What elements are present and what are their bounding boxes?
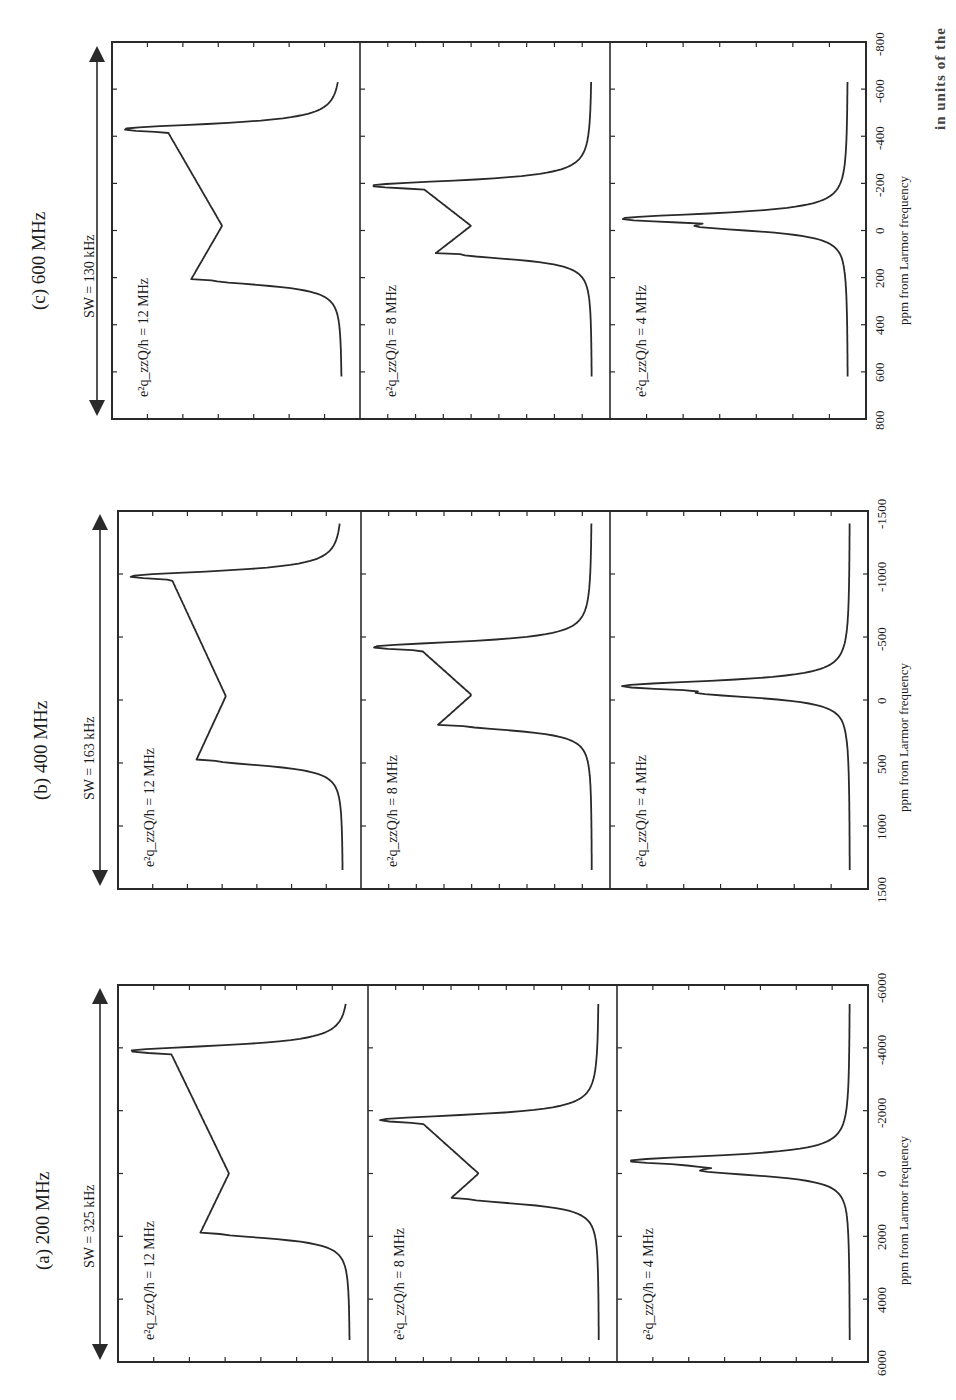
axis-tick-label: 600	[872, 363, 888, 383]
spectrum-line-b-3	[622, 524, 850, 871]
axis-tick-label: 2000	[874, 1224, 890, 1250]
axis-tick-label: 500	[874, 754, 890, 774]
panel-a-axis-title: ppm from Larmor frequency	[896, 1136, 912, 1285]
panel-b-title: (b) 400 MHz	[30, 701, 52, 800]
axis-tick-label: -200	[872, 174, 888, 198]
panel-c-sweep-width: SW = 130 kHz	[82, 235, 98, 318]
axis-tick-label: 0	[874, 1171, 890, 1178]
axis-tick-label: 4000	[874, 1287, 890, 1313]
axis-tick-label: -1500	[874, 498, 890, 528]
axis-tick-label: 1500	[874, 877, 890, 903]
axis-tick-label: -400	[872, 126, 888, 150]
axis-tick-label: -4000	[874, 1035, 890, 1065]
axis-tick-label: 0	[872, 228, 888, 235]
axis-tick-label: -600	[872, 79, 888, 103]
spectrum-line-c-3	[623, 82, 848, 377]
spectrum-line-a-3	[631, 1004, 850, 1340]
axis-tick-label: -500	[874, 627, 890, 651]
axis-tick-label: -1000	[874, 561, 890, 591]
spectrum-line-a-2	[380, 1004, 599, 1340]
quadrupole-coupling-label: e²q_zzQ/h = 4 MHz	[641, 1228, 657, 1340]
panel-b-sweep-width: SW = 163 kHz	[82, 717, 98, 800]
quadrupole-coupling-label: e²q_zzQ/h = 8 MHz	[392, 1228, 408, 1340]
axis-tick-label: -6000	[874, 972, 890, 1002]
quadrupole-coupling-label: e²q_zzQ/h = 8 MHz	[384, 285, 400, 397]
quadrupole-coupling-label: e²q_zzQ/h = 8 MHz	[385, 755, 401, 867]
figure-caption-fragment: in units of the	[932, 27, 949, 130]
spectrum-line-c-2	[374, 82, 592, 377]
axis-tick-label: 400	[872, 316, 888, 336]
spectrum-line-a-1	[132, 1004, 350, 1340]
quadrupole-coupling-label: e²q_zzQ/h = 4 MHz	[634, 755, 650, 867]
axis-tick-label: 200	[872, 269, 888, 289]
axis-tick-label: 6000	[874, 1350, 890, 1376]
panel-a-frame	[118, 985, 868, 1362]
axis-tick-label: 800	[872, 410, 888, 430]
axis-tick-label: 0	[874, 697, 890, 704]
axis-tick-label: -800	[872, 32, 888, 56]
spectrum-line-c-1	[125, 82, 341, 377]
axis-tick-label: 1000	[874, 814, 890, 840]
spectrum-line-b-2	[374, 524, 592, 871]
quadrupole-coupling-label: e²q_zzQ/h = 12 MHz	[142, 1221, 158, 1340]
panel-c-axis-title: ppm from Larmor frequency	[896, 176, 912, 325]
quadrupole-coupling-label: e²q_zzQ/h = 12 MHz	[136, 278, 152, 397]
panel-c-title: (c) 600 MHz	[28, 212, 50, 310]
panel-a-sweep-width: SW = 325 kHz	[82, 1185, 98, 1268]
panel-a-title: (a) 200 MHz	[32, 1172, 54, 1270]
quadrupole-coupling-label: e²q_zzQ/h = 4 MHz	[634, 285, 650, 397]
spectrum-line-b-1	[131, 524, 343, 871]
panel-b-axis-title: ppm from Larmor frequency	[896, 663, 912, 812]
nmr-figure: (c) 600 MHz SW = 130 kHz ppm from Larmor…	[0, 0, 956, 1400]
quadrupole-coupling-label: e²q_zzQ/h = 12 MHz	[142, 748, 158, 867]
panel-b-frame	[118, 511, 868, 889]
axis-tick-label: -2000	[874, 1098, 890, 1128]
spectra-plot-canvas	[0, 0, 956, 1400]
